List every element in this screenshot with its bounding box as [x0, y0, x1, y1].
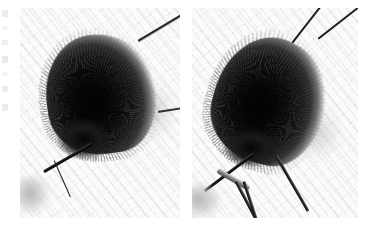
panel-right: [192, 8, 358, 218]
figure-root: [0, 0, 372, 226]
panel-vignette: [192, 8, 358, 218]
cropped-margin-marks: [0, 10, 10, 115]
panel-left: [20, 8, 180, 218]
panel-vignette: [20, 8, 180, 218]
